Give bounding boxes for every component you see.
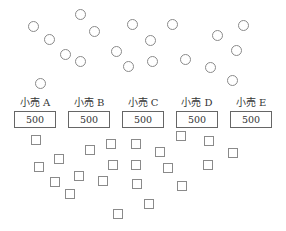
square-icon (144, 199, 154, 209)
square-icon (65, 189, 75, 199)
circle-icon (75, 56, 86, 67)
store-b-value: 500 (68, 111, 110, 128)
store-c-label: 小売 C (122, 97, 164, 109)
store-e: 小売 E 500 (230, 97, 272, 128)
square-icon (106, 139, 116, 149)
square-icon (155, 147, 165, 157)
circle-icon (123, 61, 134, 72)
square-icon (31, 135, 41, 145)
circle-icon (89, 26, 100, 37)
circle-icon (145, 35, 156, 46)
square-icon (74, 171, 84, 181)
square-icon (203, 160, 213, 170)
circle-icon (227, 75, 238, 86)
circle-icon (212, 30, 223, 41)
square-icon (54, 154, 64, 164)
square-icon (34, 162, 44, 172)
square-icon (163, 163, 173, 173)
square-icon (113, 209, 123, 219)
store-a-label: 小売 A (14, 97, 56, 109)
circle-icon (147, 56, 158, 67)
square-icon (131, 139, 141, 149)
store-a: 小売 A 500 (14, 97, 56, 128)
store-e-value: 500 (230, 111, 272, 128)
square-icon (132, 179, 142, 189)
store-d: 小売 D 500 (176, 97, 218, 128)
circle-icon (238, 20, 249, 31)
circle-icon (75, 9, 86, 20)
store-d-label: 小売 D (176, 97, 218, 109)
square-icon (131, 160, 141, 170)
circle-icon (180, 54, 191, 65)
circle-icon (44, 34, 55, 45)
circle-icon (205, 62, 216, 73)
square-icon (176, 131, 186, 141)
circle-icon (167, 19, 178, 30)
store-e-label: 小売 E (230, 97, 272, 109)
store-b-label: 小売 B (68, 97, 110, 109)
store-c-value: 500 (122, 111, 164, 128)
square-icon (204, 136, 214, 146)
store-b: 小売 B 500 (68, 97, 110, 128)
store-d-value: 500 (176, 111, 218, 128)
circle-icon (231, 45, 242, 56)
square-icon (85, 145, 95, 155)
circle-icon (28, 21, 39, 32)
square-icon (177, 181, 187, 191)
circle-icon (35, 78, 46, 89)
circle-icon (60, 49, 71, 60)
circle-icon (111, 46, 122, 57)
store-c: 小売 C 500 (122, 97, 164, 128)
square-icon (50, 177, 60, 187)
square-icon (228, 148, 238, 158)
square-icon (108, 160, 118, 170)
square-icon (98, 176, 108, 186)
store-a-value: 500 (14, 111, 56, 128)
circle-icon (127, 19, 138, 30)
